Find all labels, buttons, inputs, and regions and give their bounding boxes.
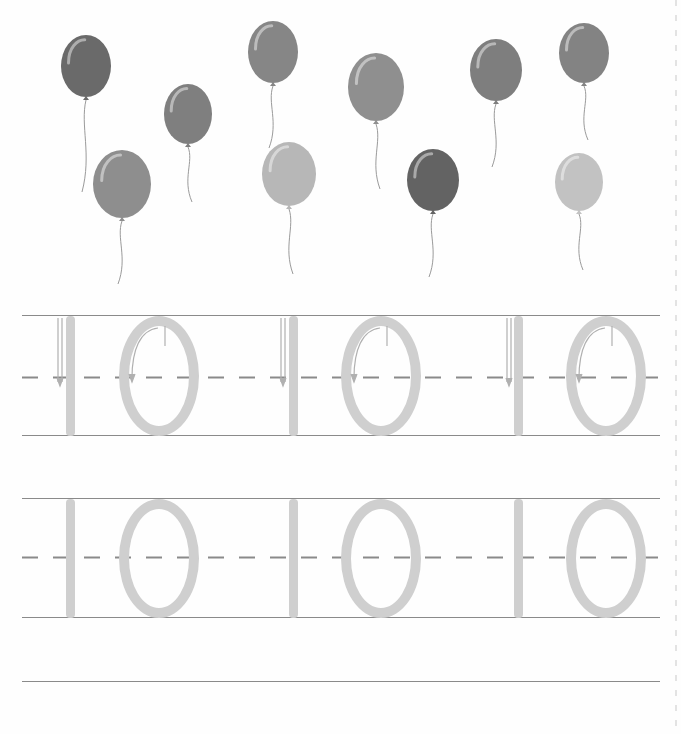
balloon-icon [555, 153, 603, 270]
bottom-rule [22, 617, 660, 618]
writing-line [22, 681, 660, 682]
balloon-icon [470, 39, 522, 167]
trace-digit-one [289, 499, 298, 618]
trace-digit-zero [341, 499, 421, 618]
bottom-rule [22, 435, 660, 436]
page-edge [675, 0, 677, 734]
balloon-icon [262, 142, 316, 274]
balloon-illustration [0, 0, 681, 290]
balloon-icon [348, 53, 404, 189]
balloon-icon [407, 149, 459, 277]
balloon-icon [164, 84, 212, 202]
trace-digit-zero [566, 499, 646, 618]
balloons-group [0, 0, 681, 290]
balloon-icon [248, 21, 298, 148]
balloon-icon [559, 23, 609, 140]
trace-digit-one [66, 499, 75, 618]
trace-digit-zero [119, 499, 199, 618]
top-rule [22, 498, 660, 499]
balloon-icon [93, 150, 151, 284]
stroke-direction-arrows [0, 300, 681, 400]
trace-digit-one [514, 499, 523, 618]
